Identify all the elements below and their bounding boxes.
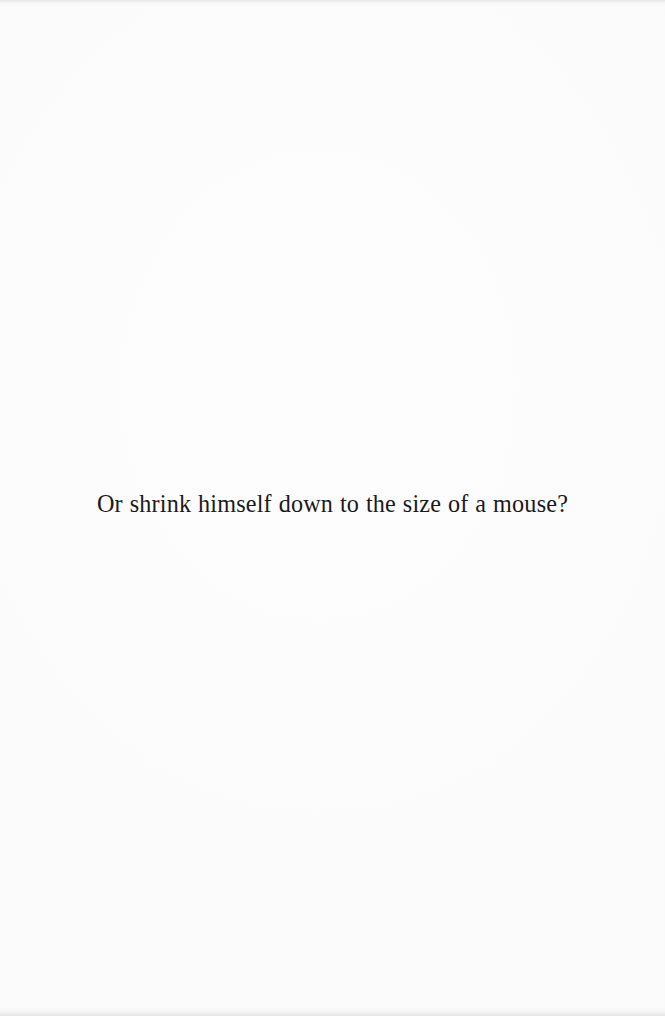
body-text-line: Or shrink himself down to the size of a … (97, 489, 568, 519)
page-text-block: Or shrink himself down to the size of a … (0, 489, 665, 519)
scan-edge-artifact-bottom (0, 1006, 665, 1016)
book-page: Or shrink himself down to the size of a … (0, 0, 665, 1016)
scan-edge-artifact-top (0, 0, 665, 7)
